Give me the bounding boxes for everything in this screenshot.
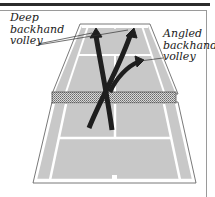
label-line: Angled	[163, 28, 215, 40]
angled-backhand-volley-label: Angled backhand volley	[163, 28, 215, 63]
near-court	[33, 102, 196, 183]
net	[52, 92, 176, 103]
label-line: Deep	[10, 12, 64, 24]
label-line: volley	[10, 35, 64, 47]
deep-backhand-volley-label: Deep backhand volley	[10, 12, 64, 47]
label-line: volley	[163, 51, 215, 63]
